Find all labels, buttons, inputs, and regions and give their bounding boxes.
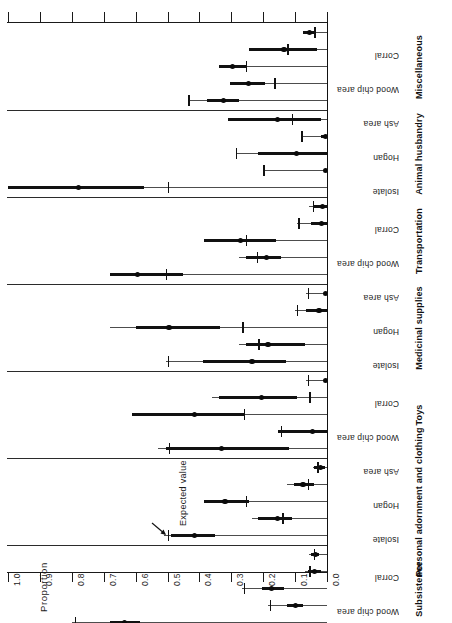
table-row: Wood chip area [0, 302, 452, 319]
ci-thick-bar [136, 326, 221, 329]
table-row: Hogan [0, 249, 452, 266]
ci-thin-line [263, 170, 327, 171]
point-estimate-marker [222, 499, 227, 504]
table-row: Isolate [0, 614, 452, 623]
table-row: Ash area [0, 232, 452, 249]
expected-value-tick [282, 513, 283, 524]
point-estimate-marker [221, 98, 226, 103]
table-row: Hogan [0, 75, 452, 92]
point-estimate-marker [319, 221, 324, 226]
point-estimate-marker [230, 64, 235, 69]
expected-value-tick [257, 252, 258, 263]
expected-value-tick [166, 269, 167, 280]
axis-tick-top-2 [72, 12, 73, 22]
expected-value-tick [246, 235, 247, 246]
expected-value-tick [308, 375, 309, 386]
point-estimate-marker [192, 533, 197, 538]
point-estimate-marker [249, 359, 254, 364]
expected-value-tick [314, 549, 315, 560]
expected-value-tick [313, 201, 314, 212]
expected-value-tick [188, 95, 189, 106]
table-row: Ash area [0, 493, 452, 510]
point-estimate-marker [312, 569, 317, 574]
table-row: Ash area [0, 319, 452, 336]
expected-value-tick [301, 131, 302, 142]
point-estimate-marker [275, 117, 280, 122]
point-estimate-marker [293, 603, 298, 608]
table-row: Hogan [0, 336, 452, 353]
expected-value-tick [244, 409, 245, 420]
point-estimate-marker [246, 81, 251, 86]
point-estimate-marker [264, 255, 269, 260]
point-estimate-marker [316, 308, 321, 313]
table-row: Corral [0, 372, 452, 389]
expected-value-tick [263, 165, 264, 176]
expected-value-tick [244, 583, 245, 594]
top-axis [7, 22, 328, 23]
table-row: Isolate [0, 179, 452, 196]
expected-value-annotation: Expected value [178, 460, 188, 526]
table-row: Hogan [0, 510, 452, 527]
point-estimate-marker [265, 342, 270, 347]
table-row: Isolate [0, 266, 452, 283]
table-row: Wood chip area [0, 389, 452, 406]
point-estimate-marker [310, 429, 315, 434]
table-row: Ash area [0, 580, 452, 597]
axis-tick-top-4 [136, 12, 137, 22]
table-row: Ash area [0, 58, 452, 75]
table-row: Wood chip area [0, 41, 452, 58]
expected-value-tick [308, 479, 309, 490]
point-estimate-marker [238, 238, 243, 243]
point-estimate-marker [275, 516, 280, 521]
axis-tick-top-1 [40, 12, 41, 22]
expected-value-tick [309, 392, 310, 403]
expected-value-tick [309, 566, 310, 577]
expected-value-tick [297, 305, 298, 316]
table-row: Isolate [0, 527, 452, 544]
point-estimate-marker [300, 482, 305, 487]
point-estimate-marker [166, 325, 171, 330]
zero-baseline [327, 22, 328, 572]
ci-thick-bar [246, 343, 305, 346]
table-row: Isolate [0, 92, 452, 109]
axis-tick-top-10 [327, 12, 328, 22]
ci-thick-bar [203, 360, 286, 363]
axis-tick-top-8 [263, 12, 264, 22]
expected-value-tick [168, 356, 169, 367]
table-row: Corral [0, 459, 452, 476]
point-estimate-marker [135, 272, 140, 277]
expected-value-tick [258, 339, 259, 350]
axis-tick-top-3 [104, 12, 105, 22]
expected-value-tick [236, 148, 237, 159]
table-row: Ash area [0, 145, 452, 162]
ci-thick-bar [110, 273, 183, 276]
point-estimate-marker [76, 185, 81, 190]
axis-tick-top-0 [8, 12, 9, 22]
table-row: Hogan [0, 423, 452, 440]
table-row: Isolate [0, 353, 452, 370]
expected-value-tick [292, 114, 293, 125]
axis-tick-top-9 [295, 12, 296, 22]
forest-plot-figure: 1.00.90.80.70.60.50.40.30.20.10.0Proport… [0, 0, 452, 623]
point-estimate-marker [294, 151, 299, 156]
ci-thin-line [242, 588, 327, 589]
expected-value-tick [298, 218, 299, 229]
table-row: Ash area [0, 406, 452, 423]
point-estimate-marker [307, 30, 312, 35]
expected-value-tick [314, 27, 315, 38]
axis-tick-top-7 [231, 12, 232, 22]
annotation-arrow-icon [150, 522, 176, 542]
axis-tick-top-6 [199, 12, 200, 22]
ci-thick-bar [166, 447, 289, 450]
expected-value-tick [274, 78, 275, 89]
ci-thick-bar [219, 396, 297, 399]
expected-value-tick [287, 44, 288, 55]
table-row: Corral [0, 285, 452, 302]
expected-value-tick [308, 288, 309, 299]
expected-value-tick [317, 462, 318, 473]
table-row: Wood chip area [0, 476, 452, 493]
point-estimate-marker [320, 204, 325, 209]
table-row: Corral [0, 546, 452, 563]
expected-value-tick [281, 426, 282, 437]
table-row: Hogan [0, 162, 452, 179]
